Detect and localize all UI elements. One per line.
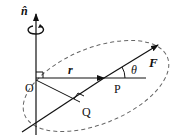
- r-label: r: [68, 64, 73, 76]
- q-label: Q: [82, 106, 91, 118]
- rotation-plane-ellipse: [10, 22, 171, 139]
- force-line: [22, 78, 104, 132]
- theta-label: θ: [131, 64, 137, 76]
- axis-label: n̂: [21, 5, 28, 17]
- origin-label: O: [25, 82, 34, 94]
- theta-arc: [122, 67, 125, 78]
- p-label: P: [114, 83, 121, 95]
- f-label: F: [149, 56, 158, 69]
